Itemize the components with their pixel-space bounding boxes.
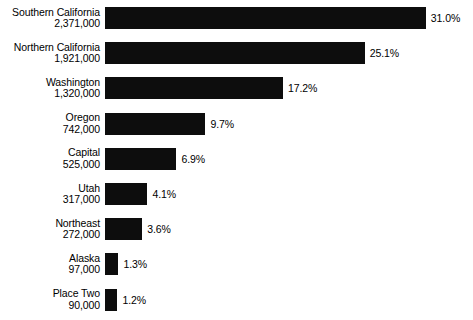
bar-row-labels: Northern California1,921,000 (0, 42, 100, 65)
bar-row-labels: Oregon742,000 (0, 112, 100, 135)
bar (105, 253, 118, 275)
bar (105, 218, 142, 240)
bar-area: 17.2% (100, 77, 473, 99)
category-label: Place Two (0, 288, 100, 300)
category-count-label: 272,000 (0, 229, 100, 241)
bar (105, 77, 283, 99)
bar-row: Capital525,0006.9% (0, 144, 473, 174)
bar-value-label: 1.2% (122, 294, 146, 306)
bar-row-labels: Capital525,000 (0, 147, 100, 170)
bar-row: Oregon742,0009.7% (0, 109, 473, 139)
bar-row-labels: Alaska97,000 (0, 253, 100, 276)
bar-area: 6.9% (100, 148, 473, 170)
bar (105, 7, 426, 29)
bar-area: 25.1% (100, 42, 473, 64)
bar-area: 1.2% (100, 289, 473, 311)
bar-area: 1.3% (100, 253, 473, 275)
bar-area: 9.7% (100, 113, 473, 135)
bar-value-label: 17.2% (288, 82, 317, 94)
bar-area: 3.6% (100, 218, 473, 240)
bar (105, 42, 365, 64)
bar (105, 183, 147, 205)
bar-value-label: 3.6% (147, 223, 171, 235)
category-count-label: 97,000 (0, 264, 100, 276)
bar-row-labels: Place Two90,000 (0, 288, 100, 311)
bar-row-labels: Washington1,320,000 (0, 77, 100, 100)
bar-value-label: 1.3% (123, 258, 147, 270)
horizontal-bar-chart: Southern California2,371,00031.0%Norther… (0, 0, 473, 320)
bar-value-label: 9.7% (210, 118, 234, 130)
bar-row: Alaska97,0001.3% (0, 249, 473, 279)
bar-value-label: 6.9% (181, 153, 205, 165)
bar-value-label: 25.1% (370, 47, 399, 59)
bar-value-label: 31.0% (431, 12, 460, 24)
bar-row: Place Two90,0001.2% (0, 285, 473, 315)
category-count-label: 742,000 (0, 124, 100, 136)
bar-row: Northern California1,921,00025.1% (0, 38, 473, 68)
bar-row-labels: Southern California2,371,000 (0, 7, 100, 30)
category-count-label: 2,371,000 (0, 18, 100, 30)
category-count-label: 90,000 (0, 300, 100, 312)
bar (105, 289, 117, 311)
bar-row: Northeast272,0003.6% (0, 214, 473, 244)
bar-row: Washington1,320,00017.2% (0, 73, 473, 103)
bar-row-labels: Utah317,000 (0, 183, 100, 206)
bar-area: 4.1% (100, 183, 473, 205)
bar-value-label: 4.1% (152, 188, 176, 200)
bar (105, 148, 176, 170)
bar (105, 113, 205, 135)
bar-row-labels: Northeast272,000 (0, 218, 100, 241)
bar-area: 31.0% (100, 7, 473, 29)
bar-row: Utah317,0004.1% (0, 179, 473, 209)
category-count-label: 525,000 (0, 159, 100, 171)
bar-row: Southern California2,371,00031.0% (0, 3, 473, 33)
category-count-label: 1,320,000 (0, 88, 100, 100)
category-count-label: 317,000 (0, 194, 100, 206)
category-label: Oregon (0, 112, 100, 124)
category-count-label: 1,921,000 (0, 53, 100, 65)
